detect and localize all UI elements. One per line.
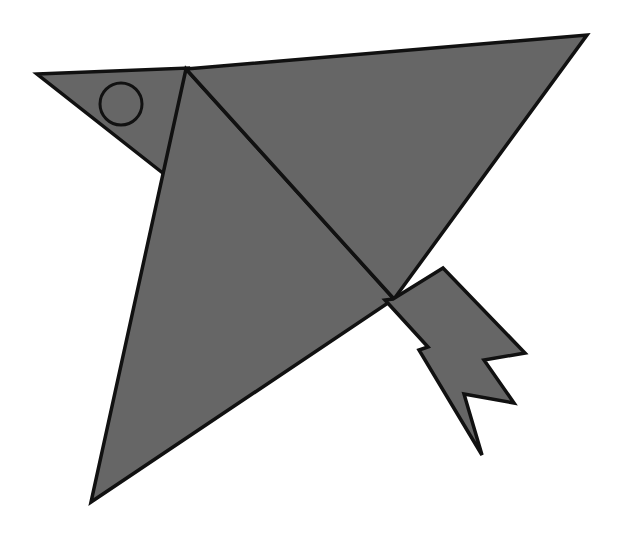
figure-canvas: Origami Bird Figure	[0, 0, 622, 534]
bird-eye-icon	[100, 83, 142, 125]
bird-illustration	[0, 0, 622, 534]
